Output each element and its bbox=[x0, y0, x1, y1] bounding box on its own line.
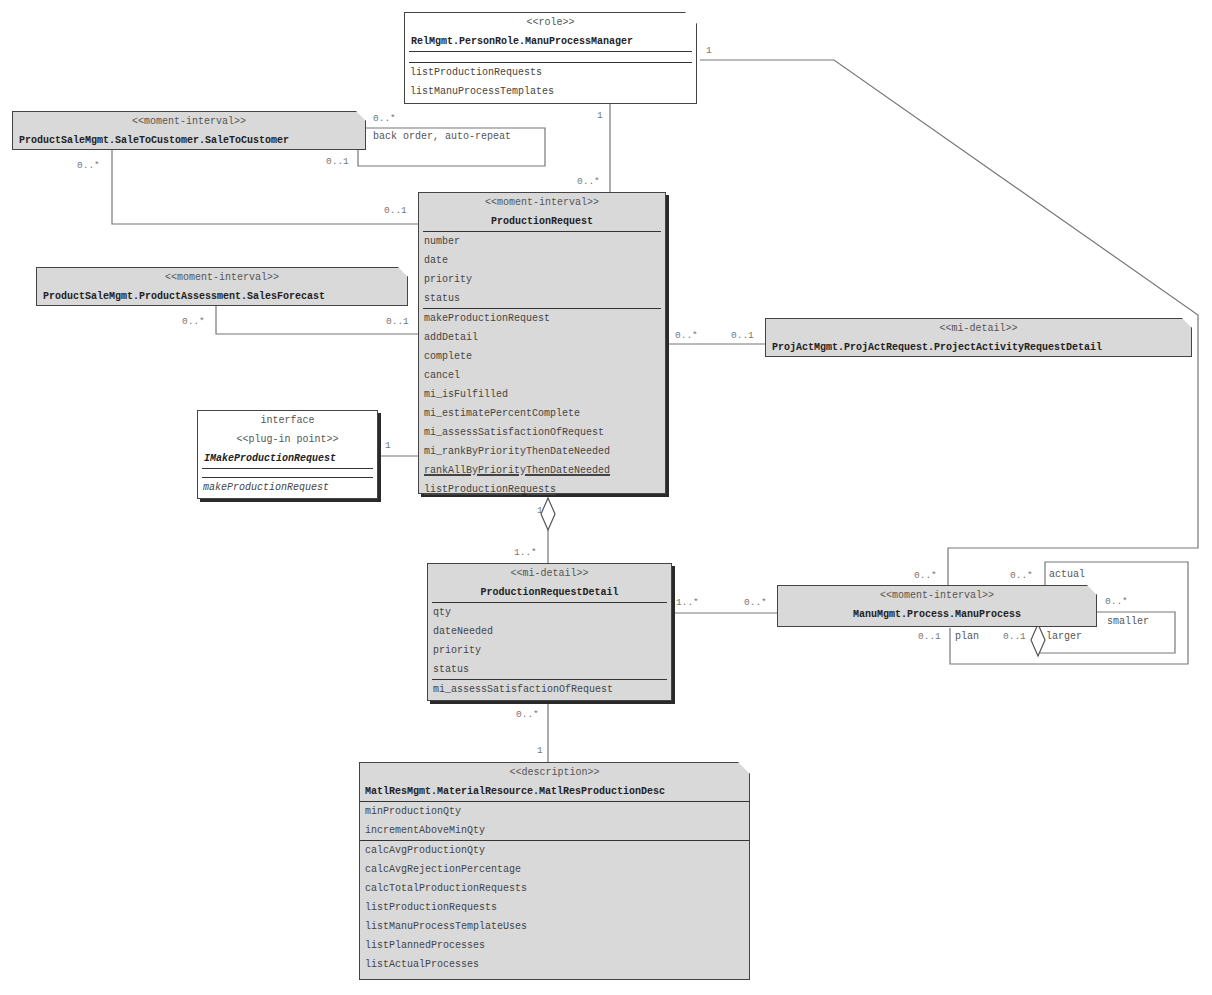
multiplicity-label: 1 bbox=[537, 505, 543, 516]
class-name: ProductionRequest bbox=[419, 212, 665, 231]
attribute-item: priority bbox=[419, 270, 665, 289]
multiplicity-label: 0..1 bbox=[386, 316, 409, 327]
multiplicity-label: 1 bbox=[537, 745, 543, 756]
multiplicity-label: 0..* bbox=[182, 316, 205, 327]
stereotype-label: <<mi-detail>> bbox=[428, 564, 671, 583]
attribute-item: status bbox=[419, 289, 665, 308]
attribute-item: status bbox=[428, 660, 671, 679]
attribute-item: dateNeeded bbox=[428, 622, 671, 641]
multiplicity-label: 0..1 bbox=[1003, 631, 1026, 642]
assoc-sale-productionrequest bbox=[112, 148, 418, 224]
method-item: listActualProcesses bbox=[360, 955, 749, 974]
method-item: makeProductionRequest bbox=[419, 309, 665, 328]
class-matl-res-production-desc[interactable]: <<description>> MatlResMgmt.MaterialReso… bbox=[359, 762, 750, 980]
method-item: listManuProcessTemplateUses bbox=[360, 917, 749, 936]
stereotype-label: <<mi-detail>> bbox=[766, 319, 1191, 338]
class-name: ManuMgmt.Process.ManuProcess bbox=[778, 605, 1096, 624]
method-item: mi_assessSatisfactionOfRequest bbox=[419, 423, 665, 442]
multiplicity-label: 0..* bbox=[1105, 596, 1128, 607]
multiplicity-label: 1 bbox=[706, 45, 712, 56]
class-manu-process[interactable]: <<moment-interval>> ManuMgmt.Process.Man… bbox=[777, 585, 1097, 627]
attribute-item: qty bbox=[428, 603, 671, 622]
multiplicity-label: 1..* bbox=[676, 597, 699, 608]
class-name: ProjActMgmt.ProjActRequest.ProjectActivi… bbox=[766, 338, 1191, 357]
method-item: mi_estimatePercentComplete bbox=[419, 404, 665, 423]
static-method-item: listProductionRequests bbox=[419, 480, 665, 499]
class-project-activity-request-detail[interactable]: <<mi-detail>> ProjActMgmt.ProjActRequest… bbox=[765, 318, 1192, 357]
multiplicity-label: 1 bbox=[597, 110, 603, 121]
method-item: complete bbox=[419, 347, 665, 366]
method-item: listPlannedProcesses bbox=[360, 936, 749, 955]
aggregation-diamond-icon bbox=[541, 498, 555, 530]
class-sale-to-customer[interactable]: <<moment-interval>> ProductSaleMgmt.Sale… bbox=[12, 111, 366, 150]
method-item: calcAvgProductionQty bbox=[360, 841, 749, 860]
attribute-item: incrementAboveMinQty bbox=[360, 821, 749, 840]
attribute-item: priority bbox=[428, 641, 671, 660]
attribute-item: minProductionQty bbox=[360, 802, 749, 821]
interface-make-production-request[interactable]: interface <<plug-in point>> IMakeProduct… bbox=[197, 410, 378, 499]
class-name: MatlResMgmt.MaterialResource.MatlResProd… bbox=[360, 782, 749, 801]
method-item: cancel bbox=[419, 366, 665, 385]
interface-keyword: interface bbox=[198, 411, 377, 430]
method-item: calcAvgRejectionPercentage bbox=[360, 860, 749, 879]
method-item: listProductionRequests bbox=[405, 63, 696, 82]
multiplicity-label: 0..* bbox=[77, 160, 100, 171]
stereotype-label: <<moment-interval>> bbox=[778, 586, 1096, 605]
role-label: plan bbox=[955, 631, 979, 642]
stereotype-label: <<description>> bbox=[360, 763, 749, 782]
method-item: addDetail bbox=[419, 328, 665, 347]
static-method-item: rankAllByPriorityThenDateNeeded bbox=[419, 461, 665, 480]
method-item: makeProductionRequest bbox=[198, 478, 377, 497]
stereotype-label: <<plug-in point>> bbox=[198, 430, 377, 449]
role-label: smaller bbox=[1107, 616, 1149, 627]
role-label: back order, auto-repeat bbox=[373, 131, 511, 142]
stereotype-label: <<moment-interval>> bbox=[37, 268, 407, 287]
multiplicity-label: 0..* bbox=[516, 709, 539, 720]
multiplicity-label: 0..* bbox=[577, 176, 600, 187]
multiplicity-label: 1..* bbox=[514, 547, 537, 558]
multiplicity-label: 0..* bbox=[914, 570, 937, 581]
method-item: calcTotalProductionRequests bbox=[360, 879, 749, 898]
multiplicity-label: 1 bbox=[385, 440, 391, 451]
divider bbox=[409, 51, 692, 52]
role-label: larger bbox=[1046, 631, 1082, 642]
multiplicity-label: 0..1 bbox=[918, 631, 941, 642]
class-name: ProductSaleMgmt.SaleToCustomer.SaleToCus… bbox=[13, 131, 365, 150]
multiplicity-label: 0..1 bbox=[731, 330, 754, 341]
multiplicity-label: 0..1 bbox=[384, 205, 407, 216]
method-item: mi_assessSatisfactionOfRequest bbox=[428, 680, 671, 699]
multiplicity-label: 0..* bbox=[675, 330, 698, 341]
class-name: ProductionRequestDetail bbox=[428, 583, 671, 602]
multiplicity-label: 0..* bbox=[744, 597, 767, 608]
class-name: ProductSaleMgmt.ProductAssessment.SalesF… bbox=[37, 287, 407, 306]
stereotype-label: <<moment-interval>> bbox=[419, 193, 665, 212]
method-item: mi_rankByPriorityThenDateNeeded bbox=[419, 442, 665, 461]
multiplicity-label: 0..1 bbox=[326, 156, 349, 167]
attribute-item: number bbox=[419, 232, 665, 251]
multiplicity-label: 0..* bbox=[373, 113, 396, 124]
class-manu-process-manager[interactable]: <<role>> RelMgmt.PersonRole.ManuProcessM… bbox=[404, 12, 697, 104]
method-item: listProductionRequests bbox=[360, 898, 749, 917]
stereotype-label: <<role>> bbox=[405, 13, 696, 32]
aggregation-diamond-icon bbox=[1031, 624, 1045, 656]
divider bbox=[202, 468, 373, 469]
class-name: IMakeProductionRequest bbox=[198, 449, 377, 468]
stereotype-label: <<moment-interval>> bbox=[13, 112, 365, 131]
method-item: mi_isFulfilled bbox=[419, 385, 665, 404]
attribute-item: date bbox=[419, 251, 665, 270]
class-production-request-detail[interactable]: <<mi-detail>> ProductionRequestDetail qt… bbox=[427, 563, 672, 701]
method-item: listManuProcessTemplates bbox=[405, 82, 696, 101]
multiplicity-label: 0..* bbox=[1010, 570, 1033, 581]
class-name: RelMgmt.PersonRole.ManuProcessManager bbox=[405, 32, 696, 51]
class-production-request[interactable]: <<moment-interval>> ProductionRequest nu… bbox=[418, 192, 666, 494]
role-label: actual bbox=[1049, 569, 1085, 580]
class-sales-forecast[interactable]: <<moment-interval>> ProductSaleMgmt.Prod… bbox=[36, 267, 408, 306]
